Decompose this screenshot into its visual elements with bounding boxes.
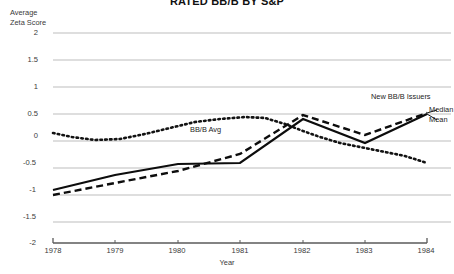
series-mean-solid	[53, 114, 427, 190]
median-label: Median	[429, 105, 453, 114]
series-median-dashed	[53, 113, 427, 195]
gridlines	[53, 33, 451, 222]
chart-plot-svg	[0, 0, 454, 274]
mean-label: Mean	[429, 115, 448, 124]
new-bbb-issuers-label: New BB/B Issuers	[371, 92, 431, 101]
x-axis	[53, 238, 427, 243]
bbb-avg-label: BB/B Avg	[188, 125, 223, 134]
chart-container: RATED BB/B BY S&P Average Zeta Score 2 1…	[0, 0, 454, 274]
